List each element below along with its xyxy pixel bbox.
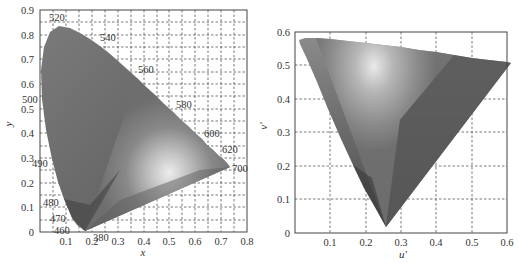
- uv-x-ticks: 0.1 0.2 0.3 0.4 0.5 0.6: [323, 237, 513, 248]
- svg-text:470: 470: [50, 213, 66, 224]
- svg-text:0.2: 0.2: [359, 237, 372, 248]
- svg-text:700: 700: [232, 163, 248, 174]
- svg-text:0.4: 0.4: [429, 237, 443, 248]
- svg-text:0.1: 0.1: [21, 202, 34, 213]
- svg-text:0.5: 0.5: [277, 60, 290, 71]
- svg-text:0.6: 0.6: [21, 79, 34, 90]
- svg-text:0.3: 0.3: [277, 127, 290, 138]
- svg-text:0.1: 0.1: [59, 236, 72, 247]
- svg-text:0.1: 0.1: [277, 194, 290, 205]
- svg-text:0.4: 0.4: [21, 128, 35, 139]
- svg-text:580: 580: [176, 99, 192, 110]
- uv-chart: 0 0.1 0.2 0.3 0.4 0.5 0.6 0.1 0.2 0.3 0.…: [257, 27, 514, 260]
- svg-text:520: 520: [49, 12, 65, 23]
- svg-text:0: 0: [285, 228, 290, 239]
- xy-x-axis-label: x: [140, 246, 146, 258]
- chromaticity-figure: 0 0.1 0.2 0.3 0.4 0.5 0.6 0.7 0.8 0.9 0.…: [0, 0, 519, 263]
- svg-text:0.6: 0.6: [500, 237, 513, 248]
- svg-text:0.1: 0.1: [323, 237, 336, 248]
- svg-text:0.4: 0.4: [277, 94, 291, 105]
- xy-gamut: [41, 26, 230, 231]
- svg-text:0.8: 0.8: [240, 236, 253, 247]
- xy-x-ticks: 0.1 0.2 0.3 0.4 0.5 0.6 0.7 0.8: [59, 236, 253, 247]
- svg-text:380: 380: [93, 232, 109, 243]
- svg-text:500: 500: [22, 94, 38, 105]
- svg-text:620: 620: [222, 144, 238, 155]
- svg-text:0.7: 0.7: [214, 236, 227, 247]
- svg-text:0.5: 0.5: [21, 104, 34, 115]
- svg-text:600: 600: [204, 128, 220, 139]
- uv-y-ticks: 0 0.1 0.2 0.3 0.4 0.5 0.6: [277, 27, 291, 239]
- svg-text:490: 490: [32, 158, 48, 169]
- uv-y-axis-label: v': [257, 122, 269, 130]
- svg-text:540: 540: [100, 32, 116, 43]
- svg-text:560: 560: [138, 64, 154, 75]
- svg-text:0.7: 0.7: [21, 54, 34, 65]
- uv-x-axis-label: u': [399, 248, 408, 260]
- svg-text:0.6: 0.6: [277, 27, 290, 38]
- svg-text:0.2: 0.2: [277, 161, 290, 172]
- svg-text:0.3: 0.3: [394, 237, 407, 248]
- svg-text:460: 460: [54, 225, 70, 236]
- xy-y-axis-label: y: [2, 121, 14, 127]
- svg-text:0.3: 0.3: [111, 236, 124, 247]
- svg-text:0.2: 0.2: [21, 178, 34, 189]
- uv-gamut: [299, 38, 511, 227]
- svg-text:480: 480: [43, 197, 59, 208]
- xy-y-ticks: 0 0.1 0.2 0.3 0.4 0.5 0.6 0.7 0.8 0.9: [21, 5, 35, 238]
- svg-text:0.6: 0.6: [188, 236, 201, 247]
- xy-chart: 0 0.1 0.2 0.3 0.4 0.5 0.6 0.7 0.8 0.9 0.…: [2, 5, 254, 258]
- svg-text:0.9: 0.9: [21, 5, 34, 16]
- svg-text:0.5: 0.5: [465, 237, 478, 248]
- svg-text:0: 0: [29, 227, 34, 238]
- svg-text:0.8: 0.8: [21, 30, 34, 41]
- svg-text:0.5: 0.5: [162, 236, 175, 247]
